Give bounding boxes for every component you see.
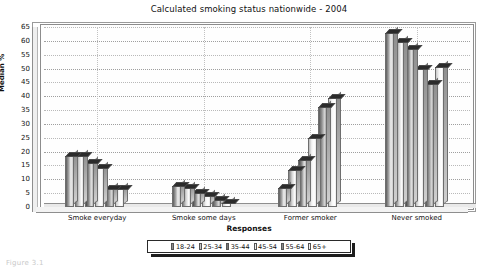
bar <box>385 33 394 207</box>
y-tick-label: 0 <box>4 203 30 211</box>
y-tick-label: 55 <box>4 51 30 59</box>
legend-label: 65+ <box>313 243 327 251</box>
x-tick-label: Never smoked <box>392 214 442 222</box>
x-axis-title: Responses <box>0 224 498 233</box>
y-tick-label: 65 <box>4 23 30 31</box>
y-axis-ticks: 05101520253035404550556065 <box>0 27 30 207</box>
x-tick-label: Smoke everyday <box>68 214 127 222</box>
bar-group <box>278 27 338 207</box>
figure-caption: Figure 3.1 <box>6 259 44 267</box>
y-tick-label: 50 <box>4 65 30 73</box>
legend-item[interactable]: 18-24 <box>171 243 194 251</box>
y-tick-label: 10 <box>4 175 30 183</box>
legend-label: 25-34 <box>203 243 222 251</box>
legend-label: 18-24 <box>176 243 195 251</box>
legend-item[interactable]: 35-44 <box>226 243 249 251</box>
axis-wall-left <box>32 22 41 212</box>
legend-swatch <box>171 243 174 250</box>
y-tick-label: 60 <box>4 37 30 45</box>
legend-swatch <box>281 243 284 250</box>
bar <box>222 203 231 207</box>
x-tick-label: Smoke some days <box>172 214 236 222</box>
y-tick-label: 5 <box>4 189 30 197</box>
chart-title: Calculated smoking status nationwide - 2… <box>0 4 498 14</box>
legend-label: 45-54 <box>258 243 277 251</box>
legend-item[interactable]: 65+ <box>308 243 326 251</box>
bar <box>65 156 74 207</box>
y-tick-label: 25 <box>4 134 30 142</box>
legend-swatch <box>308 243 311 250</box>
y-tick-label: 35 <box>4 106 30 114</box>
legend-label: 35-44 <box>231 243 250 251</box>
chart-legend: 18-2425-3435-4445-5455-6465+ <box>147 240 351 253</box>
y-tick-label: 45 <box>4 78 30 86</box>
bar <box>278 188 287 207</box>
legend-swatch <box>226 243 229 250</box>
legend-swatch <box>199 243 202 250</box>
legend-item[interactable]: 55-64 <box>281 243 304 251</box>
bar <box>172 186 181 207</box>
chart-figure: Calculated smoking status nationwide - 2… <box>0 0 498 270</box>
y-tick-label: 15 <box>4 161 30 169</box>
legend-label: 55-64 <box>285 243 304 251</box>
bar-group <box>65 27 125 207</box>
legend-item[interactable]: 25-34 <box>199 243 222 251</box>
y-tick-label: 30 <box>4 120 30 128</box>
y-tick-label: 20 <box>4 148 30 156</box>
legend-swatch <box>254 243 257 250</box>
y-tick-label: 40 <box>4 92 30 100</box>
plot-area <box>44 27 470 207</box>
bar-group <box>385 27 445 207</box>
bar-group <box>172 27 232 207</box>
x-tick-label: Former smoker <box>284 214 337 222</box>
legend-item[interactable]: 45-54 <box>254 243 277 251</box>
